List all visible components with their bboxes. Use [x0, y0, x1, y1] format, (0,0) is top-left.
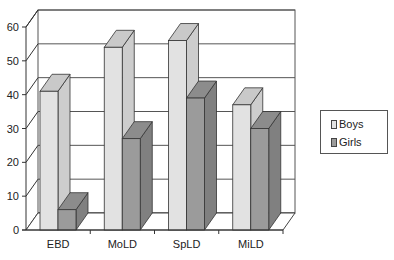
y-tick-label: 30 [7, 123, 19, 135]
bar-girls-ebd [58, 210, 76, 230]
y-tick-label: 60 [7, 21, 19, 33]
legend-swatch-girls [331, 138, 337, 147]
x-tick-label: EBD [47, 238, 70, 250]
x-tick-label: MoLD [108, 238, 137, 250]
legend-swatch-boys [331, 120, 337, 129]
bar-boys-mild [233, 105, 251, 230]
bar-girls-mild-side [269, 112, 281, 231]
legend-label-boys: Boys [339, 118, 363, 130]
y-tick-label: 50 [7, 55, 19, 67]
bar-girls-mold-side [140, 122, 152, 230]
side-gridline [26, 179, 38, 196]
bar-girls-mold [122, 139, 140, 230]
side-gridline [26, 78, 38, 95]
bar-girls-mild [251, 129, 269, 231]
legend-item-girls: Girls [331, 135, 362, 149]
bar-boys-ebd [40, 91, 58, 230]
legend: Boys Girls [320, 110, 388, 154]
side-gridline [26, 145, 38, 162]
bar-girls-spld-side [205, 81, 217, 230]
side-gridline [26, 44, 38, 61]
side-gridline [26, 112, 38, 129]
legend-label-girls: Girls [339, 136, 362, 148]
bar-boys-spld [169, 41, 187, 230]
bar-boys-mold [104, 47, 122, 230]
y-tick-label: 20 [7, 156, 19, 168]
legend-item-boys: Boys [331, 117, 363, 131]
y-tick-label: 40 [7, 89, 19, 101]
y-tick-label: 0 [13, 224, 19, 236]
x-tick-label: MiLD [238, 238, 264, 250]
x-tick-label: SpLD [173, 238, 201, 250]
side-wall-edge [26, 10, 38, 27]
y-tick-label: 10 [7, 190, 19, 202]
bar-girls-spld [187, 98, 205, 230]
